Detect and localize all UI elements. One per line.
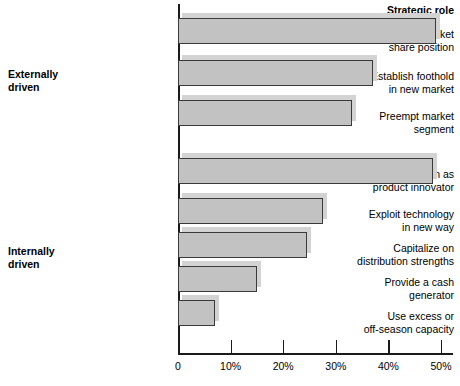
x-axis-tick (231, 340, 232, 353)
x-axis-tick-label: 10% (220, 360, 241, 372)
bar (178, 60, 373, 86)
plot-area: 010%20%30%40%50% (178, 0, 460, 355)
bar (178, 198, 323, 224)
bar (178, 300, 215, 326)
x-axis-tick (388, 340, 389, 353)
x-axis-tick-label: 30% (325, 360, 346, 372)
bar (178, 232, 307, 258)
x-axis-tick (283, 340, 284, 353)
strategic-role-bar-chart: Strategic role Externally driven Interna… (0, 0, 460, 386)
x-axis-tick (336, 340, 337, 353)
x-axis-tick (178, 340, 179, 353)
x-axis-tick-label: 20% (273, 360, 294, 372)
group-label-internally-driven-line2: driven (8, 258, 40, 270)
x-axis-tick-label: 40% (378, 360, 399, 372)
x-axis-tick-label: 0 (175, 360, 181, 372)
bar (178, 18, 436, 44)
bar (178, 100, 352, 126)
bar (178, 158, 433, 184)
group-label-externally-driven: Externally driven (8, 68, 92, 93)
bar (178, 266, 257, 292)
group-label-externally-driven-line2: driven (8, 81, 40, 93)
group-label-externally-driven-line1: Externally (8, 68, 58, 80)
x-axis-tick-label: 50% (430, 360, 451, 372)
x-axis-tick (441, 340, 442, 353)
x-axis-line (178, 353, 453, 355)
group-label-internally-driven: Internally driven (8, 245, 92, 270)
group-label-internally-driven-line1: Internally (8, 245, 55, 257)
